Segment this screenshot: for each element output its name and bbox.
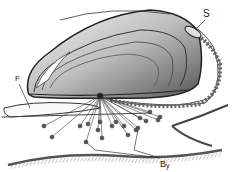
label-byssus-sub: y (166, 162, 170, 169)
mussel-illustration: S F By (0, 0, 232, 172)
mussel-drawing (0, 0, 232, 172)
mussel-shell (27, 10, 202, 98)
label-siphon: S (203, 9, 210, 19)
byssus-threads (42, 93, 162, 144)
substrate-twig (172, 105, 228, 146)
label-foot: F (15, 75, 20, 83)
label-byssus: By (160, 160, 170, 169)
